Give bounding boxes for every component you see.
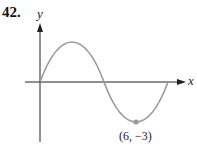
x-axis-label: x — [188, 73, 194, 89]
y-axis-arrow-icon — [37, 23, 43, 32]
sine-graph — [0, 0, 197, 157]
point-label: (6, −3) — [119, 129, 152, 144]
minimum-point — [133, 119, 138, 124]
x-axis-arrow-icon — [177, 79, 186, 85]
y-axis-label: y — [37, 6, 43, 22]
